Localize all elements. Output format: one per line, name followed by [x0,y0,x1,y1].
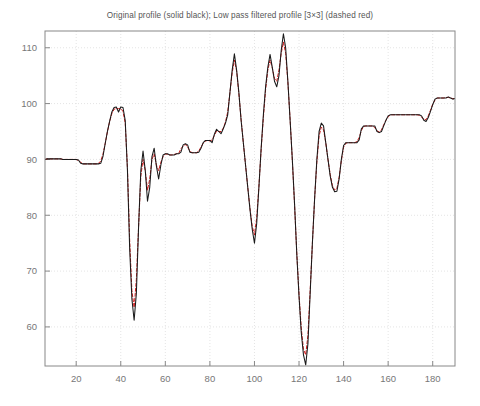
x-tick-label: 20 [71,373,82,384]
y-tick-label: 90 [26,154,37,165]
x-tick-label: 80 [205,373,216,384]
x-tick-label: 100 [247,373,263,384]
line-chart-plot: 60708090100110 20406080100120140160180 [0,0,480,406]
series-line-filtered [45,42,455,355]
x-tick-label: 160 [380,373,396,384]
y-tick-label: 80 [26,210,37,221]
y-axis-tick-labels: 60708090100110 [21,42,37,332]
x-tick-label: 120 [291,373,307,384]
y-tick-label: 60 [26,321,37,332]
x-tick-label: 60 [160,373,171,384]
series-line-original [45,34,455,365]
y-tick-label: 100 [21,98,37,109]
plot-axes-frame [45,31,455,366]
x-tick-label: 140 [336,373,352,384]
chart-figure: Original profile (solid black); Low pass… [0,0,480,406]
data-series-group [45,34,455,365]
x-tick-label: 180 [425,373,441,384]
y-tick-label: 110 [22,42,37,53]
y-tick-label: 70 [26,265,37,276]
x-tick-label: 40 [115,373,126,384]
grid-lines [45,31,455,366]
x-axis-tick-labels: 20406080100120140160180 [71,373,441,384]
